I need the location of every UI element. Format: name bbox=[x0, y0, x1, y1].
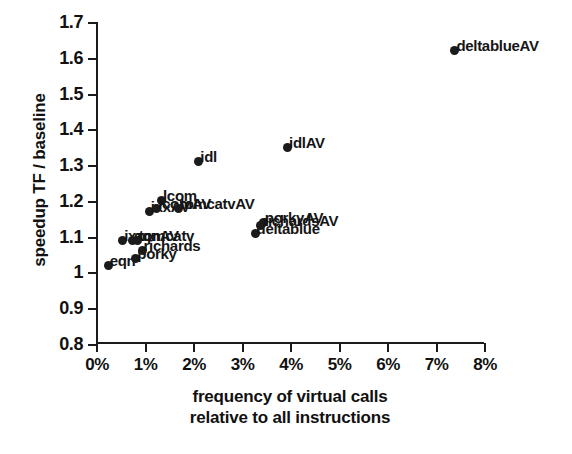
plot-area: eqnixxeqnAVtomcatvporkyrichardsixxAVlcom… bbox=[96, 22, 484, 344]
data-point: porky bbox=[131, 254, 140, 263]
x-axis-title-line-2: relative to all instructions bbox=[96, 407, 484, 428]
x-tick: 1% bbox=[145, 343, 147, 352]
x-tick: 6% bbox=[387, 343, 389, 352]
data-point-label: richardsAV bbox=[262, 212, 338, 229]
data-point: lcomAV bbox=[152, 204, 161, 213]
x-tick: 4% bbox=[290, 343, 292, 352]
data-point-label: idlAV bbox=[289, 134, 325, 151]
data-point: richards bbox=[138, 246, 147, 255]
data-point-label: deltablueAV bbox=[456, 37, 538, 54]
y-tick-label: 1.3 bbox=[59, 155, 83, 176]
x-tick: 3% bbox=[242, 343, 244, 352]
y-tick-label: 1.5 bbox=[59, 84, 83, 105]
y-tick-label: 1.7 bbox=[59, 12, 83, 33]
y-tick-label: 1.4 bbox=[59, 119, 83, 140]
x-axis-title: frequency of virtual calls relative to a… bbox=[96, 386, 484, 428]
y-axis-title: speedup TF / baseline bbox=[30, 50, 50, 310]
data-point-label: tomcatvAV bbox=[180, 195, 255, 212]
data-point: ixx bbox=[118, 236, 127, 245]
data-point: idlAV bbox=[283, 143, 292, 152]
data-point-label: idl bbox=[200, 148, 217, 165]
y-tick-label: 1.6 bbox=[59, 48, 83, 69]
x-tick-label: 4% bbox=[279, 355, 303, 375]
data-point: richardsAV bbox=[256, 221, 265, 230]
data-point: eqn bbox=[104, 261, 113, 270]
x-axis-title-line-1: frequency of virtual calls bbox=[96, 386, 484, 407]
data-point: tomcatvAV bbox=[174, 204, 183, 213]
data-point: tomcatv bbox=[133, 236, 142, 245]
x-tick-label: 1% bbox=[134, 355, 158, 375]
data-point-label: richards bbox=[144, 237, 201, 254]
x-tick: 7% bbox=[436, 343, 438, 352]
x-tick-label: 2% bbox=[182, 355, 206, 375]
y-tick-label: 0.8 bbox=[59, 334, 83, 355]
x-tick-label: 0% bbox=[85, 355, 109, 375]
data-point: deltablue bbox=[251, 229, 260, 238]
x-tick-label: 6% bbox=[376, 355, 400, 375]
y-tick-label: 1 bbox=[73, 262, 83, 283]
y-tick-label: 0.9 bbox=[59, 298, 83, 319]
y-tick-label: 1.2 bbox=[59, 191, 83, 212]
x-tick: 5% bbox=[339, 343, 341, 352]
y-tick-label: 1.1 bbox=[59, 227, 83, 248]
x-tick-label: 7% bbox=[425, 355, 449, 375]
x-tick: 0% bbox=[96, 343, 98, 352]
x-tick: 8% bbox=[484, 343, 486, 352]
data-point: deltablueAV bbox=[450, 46, 459, 55]
data-point: idl bbox=[194, 157, 203, 166]
x-tick-label: 5% bbox=[328, 355, 352, 375]
x-tick-label: 8% bbox=[473, 355, 497, 375]
x-tick-label: 3% bbox=[231, 355, 255, 375]
x-tick: 2% bbox=[193, 343, 195, 352]
scatter-chart-figure: speedup TF / baseline 0.80.911.11.21.31.… bbox=[0, 0, 572, 454]
